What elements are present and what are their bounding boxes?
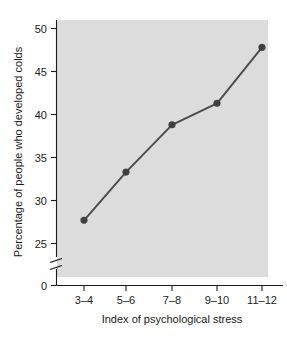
data-point bbox=[214, 100, 221, 107]
x-tick-label-3: 9–10 bbox=[205, 294, 229, 306]
data-point bbox=[169, 122, 176, 129]
x-tick-label-2: 7–8 bbox=[163, 294, 181, 306]
y-tick-label-30: 30 bbox=[35, 195, 47, 207]
line-chart: 50 45 40 35 30 25 0 Percentage of people… bbox=[0, 0, 287, 339]
chart-figure: 50 45 40 35 30 25 0 Percentage of people… bbox=[0, 0, 287, 339]
y-tick-label-40: 40 bbox=[35, 109, 47, 121]
x-tick-label-1: 5–6 bbox=[117, 294, 135, 306]
data-point bbox=[123, 169, 130, 176]
y-tick-label-50: 50 bbox=[35, 23, 47, 35]
x-axis-title: Index of psychological stress bbox=[102, 313, 243, 325]
y-axis-title: Percentage of people who developed colds bbox=[12, 46, 24, 257]
y-tick-label-0: 0 bbox=[41, 280, 47, 292]
y-tick-label-45: 45 bbox=[35, 66, 47, 78]
y-tick-label-25: 25 bbox=[35, 238, 47, 250]
plot-area-background bbox=[57, 20, 268, 277]
x-tick-label-4: 11–12 bbox=[247, 294, 277, 306]
data-point bbox=[81, 217, 88, 224]
x-tick-label-0: 3–4 bbox=[75, 294, 93, 306]
data-point bbox=[259, 44, 266, 51]
y-tick-label-35: 35 bbox=[35, 152, 47, 164]
